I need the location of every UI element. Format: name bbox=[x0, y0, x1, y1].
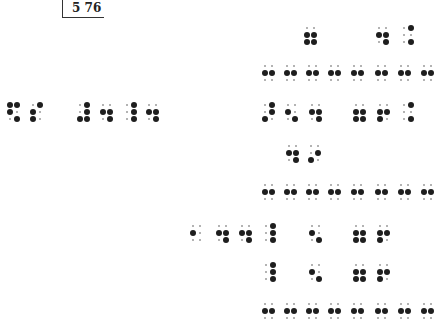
braille-dot-raised bbox=[405, 70, 411, 76]
braille-dot-empty bbox=[311, 225, 313, 227]
braille-dot-empty bbox=[271, 317, 273, 319]
braille-dot-raised bbox=[377, 230, 383, 236]
braille-dot-empty bbox=[318, 225, 320, 227]
braille-dot-empty bbox=[199, 225, 201, 227]
braille-dot-raised bbox=[30, 109, 36, 115]
braille-dot-empty bbox=[308, 79, 310, 81]
braille-dot-raised bbox=[270, 230, 276, 236]
braille-dot-empty bbox=[313, 27, 315, 29]
braille-dot-raised bbox=[428, 70, 434, 76]
braille-dot-empty bbox=[330, 198, 332, 200]
braille-dot-empty bbox=[287, 118, 289, 120]
braille-dot-empty bbox=[294, 111, 296, 113]
braille-dot-raised bbox=[377, 116, 383, 122]
braille-dot-empty bbox=[377, 303, 379, 305]
braille-dot-empty bbox=[287, 104, 289, 106]
braille-dot-empty bbox=[218, 225, 220, 227]
braille-dot-raised bbox=[353, 230, 359, 236]
braille-dot-raised bbox=[223, 230, 229, 236]
braille-dot-raised bbox=[316, 237, 322, 243]
braille-dot-empty bbox=[308, 184, 310, 186]
braille-dot-empty bbox=[384, 184, 386, 186]
braille-dot-raised bbox=[313, 308, 319, 314]
braille-dot-empty bbox=[315, 184, 317, 186]
braille-dot-raised bbox=[308, 157, 314, 163]
braille-dot-empty bbox=[403, 104, 405, 106]
braille-dot-empty bbox=[192, 239, 194, 241]
braille-dot-raised bbox=[84, 102, 90, 108]
braille-dot-empty bbox=[337, 184, 339, 186]
braille-dot-empty bbox=[286, 198, 288, 200]
braille-dot-empty bbox=[330, 303, 332, 305]
braille-dot-empty bbox=[430, 317, 432, 319]
braille-dot-empty bbox=[384, 317, 386, 319]
braille-dot-empty bbox=[386, 239, 388, 241]
braille-dot-empty bbox=[318, 232, 320, 234]
braille-dot-raised bbox=[335, 70, 341, 76]
braille-dot-raised bbox=[316, 109, 322, 115]
braille-dot-raised bbox=[292, 116, 298, 122]
braille-dot-empty bbox=[271, 79, 273, 81]
braille-dot-raised bbox=[293, 150, 299, 156]
braille-dot-empty bbox=[315, 79, 317, 81]
braille-dot-empty bbox=[199, 239, 201, 241]
braille-dot-empty bbox=[271, 65, 273, 67]
braille-dot-raised bbox=[269, 308, 275, 314]
braille-dot-raised bbox=[316, 116, 322, 122]
braille-dot-empty bbox=[353, 198, 355, 200]
braille-dot-empty bbox=[360, 303, 362, 305]
braille-dot-empty bbox=[386, 264, 388, 266]
braille-dot-raised bbox=[190, 230, 196, 236]
braille-dot-raised bbox=[351, 70, 357, 76]
braille-dot-empty bbox=[360, 198, 362, 200]
braille-dot-empty bbox=[355, 104, 357, 106]
braille-dot-empty bbox=[264, 198, 266, 200]
braille-dot-raised bbox=[304, 32, 310, 38]
braille-dot-raised bbox=[284, 308, 290, 314]
braille-dot-raised bbox=[358, 189, 364, 195]
braille-dot-empty bbox=[385, 27, 387, 29]
braille-dot-raised bbox=[7, 102, 13, 108]
braille-dot-empty bbox=[400, 198, 402, 200]
braille-dot-raised bbox=[309, 230, 315, 236]
braille-dot-raised bbox=[421, 189, 427, 195]
braille-dot-raised bbox=[360, 109, 366, 115]
braille-dot-raised bbox=[382, 308, 388, 314]
braille-dot-empty bbox=[330, 65, 332, 67]
braille-dot-empty bbox=[318, 264, 320, 266]
braille-dot-empty bbox=[286, 303, 288, 305]
braille-dot-empty bbox=[378, 41, 380, 43]
braille-dot-empty bbox=[353, 317, 355, 319]
braille-dot-raised bbox=[216, 230, 222, 236]
braille-dot-raised bbox=[421, 308, 427, 314]
braille-dot-empty bbox=[271, 118, 273, 120]
braille-dot-empty bbox=[271, 198, 273, 200]
braille-dot-raised bbox=[335, 308, 341, 314]
braille-dot-empty bbox=[423, 317, 425, 319]
braille-dot-raised bbox=[269, 102, 275, 108]
braille-dot-raised bbox=[360, 116, 366, 122]
braille-dot-raised bbox=[398, 70, 404, 76]
braille-dot-empty bbox=[126, 111, 128, 113]
braille-dot-raised bbox=[428, 189, 434, 195]
braille-dot-raised bbox=[311, 39, 317, 45]
braille-dot-empty bbox=[353, 303, 355, 305]
page-number: 5 76 bbox=[72, 1, 101, 15]
braille-dot-raised bbox=[353, 269, 359, 275]
braille-dot-raised bbox=[284, 70, 290, 76]
braille-dot-empty bbox=[386, 278, 388, 280]
braille-dot-raised bbox=[428, 308, 434, 314]
braille-dot-empty bbox=[400, 317, 402, 319]
braille-dot-empty bbox=[308, 317, 310, 319]
braille-dot-empty bbox=[192, 225, 194, 227]
braille-dot-raised bbox=[384, 269, 390, 275]
braille-dot-raised bbox=[377, 109, 383, 115]
braille-dot-raised bbox=[223, 237, 229, 243]
braille-dot-empty bbox=[337, 79, 339, 81]
braille-dot-raised bbox=[398, 189, 404, 195]
braille-dot-empty bbox=[148, 118, 150, 120]
braille-dot-empty bbox=[311, 278, 313, 280]
braille-dot-raised bbox=[107, 109, 113, 115]
braille-dot-empty bbox=[378, 27, 380, 29]
braille-dot-raised bbox=[306, 189, 312, 195]
